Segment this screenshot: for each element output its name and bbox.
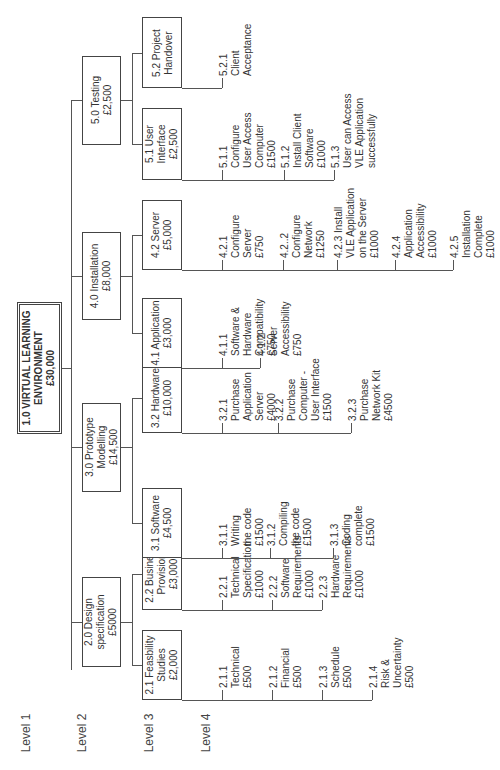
level4-item-5-2-1: 5.2.1ClientAcceptance (218, 0, 254, 76)
level4-item-3-2-3-line: 3.2.3 (347, 331, 359, 421)
level4-item-3-2-3-line: Network Kit (371, 331, 383, 421)
level3-label-line: 3.1 Software (150, 490, 162, 556)
level4-item-5-1-3-line: VLE Application (354, 78, 366, 168)
connector-line (71, 447, 82, 448)
connector-line (284, 170, 285, 180)
level4-item-3-2-3: 3.2.3PurchaseNetwork Kit£4500 (347, 331, 395, 421)
level4-item-2-1-3-line: £500 (342, 598, 354, 688)
level4-item-2-1-4-line: Uncertainty (392, 598, 404, 688)
level2-label-line: 2.0 Design (83, 580, 95, 664)
level4-item-4-1-2: 4.1.2ServerAccessibility£750 (256, 266, 304, 356)
level4-item-2-1-1-line: 2.1.1 (218, 598, 230, 688)
level4-item-4-2-3: 4.2.3 InstallVLE Applicationon the Serve… (333, 168, 381, 258)
level4-item-2-1-4: 2.1.4Risk &Uncertainty£500 (368, 598, 416, 688)
level4-item-5-1-3: 5.1.3User can AccessVLE Applicationsucce… (330, 78, 378, 168)
connector-line (132, 144, 142, 145)
level4-item-3-2-3-line: £4500 (383, 331, 395, 421)
level4-item-4-1-2-line: 4.1.2 (256, 266, 268, 356)
connector-line (132, 523, 142, 524)
connector-line (272, 600, 273, 610)
level4-item-4-2-4-line: Application (403, 168, 415, 258)
level2-label-line: £5000 (107, 580, 119, 664)
connector-line (71, 100, 82, 101)
root-label-line: ENVIRONMENT (33, 305, 45, 431)
root-label-line: 1.0 VIRTUAL LEARNING (21, 305, 33, 431)
level4-item-3-1-1-line: Writing (230, 456, 242, 546)
level4-item-5-2-1-line: Acceptance (242, 0, 254, 76)
level4-item-2-1-2-line: 2.1.2 (268, 598, 280, 688)
level4-item-4-2-2-line: £1250 (315, 168, 327, 258)
level4-item-2-1-1-line: £500 (242, 598, 254, 688)
connector-line (334, 170, 335, 180)
level3-label-line: £5,000 (162, 202, 174, 268)
level4-item-5-1-2-line: Install Client (292, 78, 304, 168)
connector-line (222, 358, 223, 368)
level4-item-4-2-2: 4.2..2ConfigureNetwork£1250 (279, 168, 327, 258)
level3-label-line: £3,000 (162, 300, 174, 366)
level4-item-5-1-3-line: User can Access (342, 78, 354, 168)
level3-label: 3.2 Hardware£10,000 (150, 365, 174, 431)
connector-line (132, 665, 142, 666)
connector-line (182, 700, 372, 701)
level4-item-5-1-1-line: Computer (254, 78, 266, 168)
connector-line (132, 53, 142, 54)
level4-item-2-1-1-line: Technical (230, 598, 242, 688)
connector-line (337, 260, 338, 270)
level4-item-4-2-2-line: Network (303, 168, 315, 258)
connector-line (333, 548, 334, 558)
level4-item-4-2-3-line: 4.2.3 Install (333, 168, 345, 258)
level4-item-4-1-2-line: £750 (292, 266, 304, 356)
connector-line (182, 610, 322, 611)
level4-item-3-1-3-line: 3.1.3 (329, 456, 341, 546)
level4-item-2-1-3: 2.1.3Schedule£500 (318, 598, 354, 688)
level4-item-4-2-2-line: 4.2..2 (279, 168, 291, 258)
connector-line (283, 260, 284, 270)
level4-item-5-1-3-line: 5.1.3 (330, 78, 342, 168)
root-label: 1.0 VIRTUAL LEARNINGENVIRONMENT£30,000 (21, 305, 57, 431)
connector-line (222, 548, 223, 558)
connector-line (222, 690, 223, 700)
level3-label: 5.1 UserInterface£2,500 (144, 110, 180, 178)
connector-line (182, 433, 351, 434)
level4-item-4-2-3-line: VLE Application (345, 168, 357, 258)
level4-item-3-1-3-line: Coding (341, 456, 353, 546)
connector-line (351, 423, 352, 433)
level4-item-3-2-3-line: Purchase (359, 331, 371, 421)
level4-item-5-1-2: 5.1.2Install ClientSoftware£1000 (280, 78, 328, 168)
connector-line (71, 622, 82, 623)
level4-item-5-1-2-line: Software (304, 78, 316, 168)
connector-line (132, 333, 142, 334)
level4-item-3-1-2-line: Compiling (278, 456, 290, 546)
connector-line (395, 260, 396, 270)
level4-item-5-2-1-line: 5.2.1 (218, 0, 230, 76)
level4-item-2-1-4-line: Risk & (380, 598, 392, 688)
level3-label: 4.1 Application£3,000 (150, 300, 174, 366)
level3-label: 5.2 ProjectHandover (150, 19, 174, 86)
level4-item-3-1-3: 3.1.3Codingcomplete£1500 (329, 456, 377, 546)
level3-label: 2.1 FeasbilityStudies£2,000 (144, 632, 180, 698)
level4-item-4-2-1-line: 4.2.1 (218, 168, 230, 258)
connector-line (182, 368, 260, 369)
level4-item-2-1-1: 2.1.1Technical£500 (218, 598, 254, 688)
level4-item-4-2-4-line: 4.2.4 (391, 168, 403, 258)
level4-item-5-1-1-line: 5.1.1 (218, 78, 230, 168)
connector-line (182, 88, 222, 89)
level4-item-4-2-1-line: £750 (254, 168, 266, 258)
level3-label-line: Studies (156, 632, 168, 698)
level4-item-2-1-4-line: £500 (404, 598, 416, 688)
level4-item-2-1-2-line: £500 (292, 598, 304, 688)
level4-item-4-1-1-line: Software & (230, 266, 242, 356)
connector-line (272, 690, 273, 700)
level4-item-3-1-1-line: 3.1.1 (218, 456, 230, 546)
level3-label-line: 2.1 Feasbility (144, 632, 156, 698)
level3-label: 3.1 Software£4,500 (150, 490, 174, 556)
level4-item-3-1-2-line: £1500 (302, 456, 314, 546)
connector-line (222, 600, 223, 610)
level4-item-4-1-1-line: Hardware (242, 266, 254, 356)
connector-line (121, 276, 132, 277)
connector-line (222, 170, 223, 180)
connector-line (222, 78, 223, 88)
level4-item-4-2-5: 4.2.5InstallationComplete£1000 (449, 168, 497, 258)
level4-item-4-2-5-line: £1000 (485, 168, 497, 258)
level3-label-line: £4,500 (162, 490, 174, 556)
